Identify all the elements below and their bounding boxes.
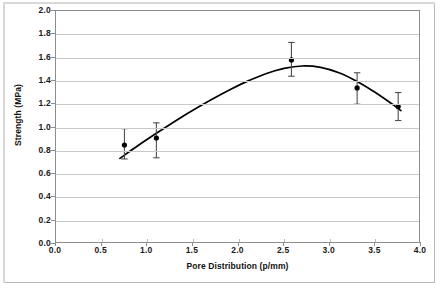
y-axis-tick-label: 1.0 xyxy=(5,122,51,131)
error-bars-group xyxy=(121,42,401,159)
y-axis-title: Strength (MPa) xyxy=(13,45,23,185)
x-axis-tick-label: 2.0 xyxy=(218,246,258,255)
horizontal-gridline xyxy=(56,221,419,222)
x-axis-tick-label: 0.5 xyxy=(81,246,121,255)
x-axis-inner-tick xyxy=(239,239,240,242)
y-axis-tick-label: 1.6 xyxy=(5,52,51,61)
x-axis-tick-mark xyxy=(374,242,375,246)
data-point-marker xyxy=(122,142,127,147)
x-axis-tick-mark xyxy=(55,242,56,246)
y-axis-tick-label: 1.4 xyxy=(5,76,51,85)
y-axis-tick-label: 0.6 xyxy=(5,169,51,178)
x-axis-tick-label: 2.5 xyxy=(263,246,303,255)
plot-area xyxy=(55,10,420,243)
y-axis-tick-labels: 0.00.20.40.60.81.01.21.41.61.82.0 xyxy=(0,10,51,243)
x-axis-inner-tick xyxy=(102,239,103,242)
x-axis-tick-label: 0.0 xyxy=(35,246,75,255)
data-point-marker xyxy=(355,85,360,90)
y-axis-tick-label: 0.8 xyxy=(5,146,51,155)
x-axis-tick-label: 3.5 xyxy=(354,246,394,255)
x-axis-tick-label: 4.0 xyxy=(400,246,440,255)
x-axis-tick-label: 3.0 xyxy=(309,246,349,255)
x-axis-tick-labels: 0.00.51.01.52.02.53.03.54.0 xyxy=(55,246,420,260)
x-axis-tick-mark xyxy=(283,242,284,246)
horizontal-gridline xyxy=(56,81,419,82)
horizontal-gridline xyxy=(56,174,419,175)
y-axis-tick-label: 2.0 xyxy=(5,6,51,15)
y-axis-tick-label: 1.2 xyxy=(5,99,51,108)
horizontal-gridline xyxy=(56,34,419,35)
x-axis-inner-tick xyxy=(375,239,376,242)
x-axis-tick-label: 1.5 xyxy=(172,246,212,255)
horizontal-gridline xyxy=(56,128,419,129)
x-axis-tick-mark xyxy=(329,242,330,246)
y-axis-tick-label: 1.8 xyxy=(5,29,51,38)
horizontal-gridline xyxy=(56,58,419,59)
x-axis-tick-mark xyxy=(146,242,147,246)
horizontal-gridline xyxy=(56,104,419,105)
x-axis-tick-mark xyxy=(101,242,102,246)
y-axis-tick-label: 0.4 xyxy=(5,192,51,201)
horizontal-gridline xyxy=(56,197,419,198)
x-axis-tick-label: 1.0 xyxy=(126,246,166,255)
y-axis-tick-label: 0.2 xyxy=(5,215,51,224)
trendline-curve xyxy=(120,66,401,158)
x-axis-inner-tick xyxy=(147,239,148,242)
x-axis-tick-mark xyxy=(192,242,193,246)
data-point-markers-group xyxy=(122,57,401,147)
x-axis-tick-mark xyxy=(238,242,239,246)
x-axis-title: Pore Distribution (p/mm) xyxy=(55,261,420,271)
data-point-marker xyxy=(154,135,159,140)
x-axis-inner-tick xyxy=(330,239,331,242)
figure-container: 0.00.20.40.60.81.01.21.41.61.82.0 0.00.5… xyxy=(0,0,440,290)
x-axis-tick-mark xyxy=(420,242,421,246)
x-axis-inner-tick xyxy=(193,239,194,242)
horizontal-gridline xyxy=(56,151,419,152)
x-axis-inner-tick xyxy=(284,239,285,242)
